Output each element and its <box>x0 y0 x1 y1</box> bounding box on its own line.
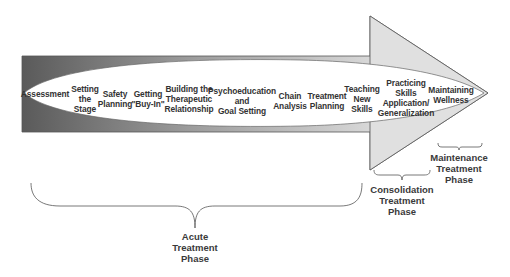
step-maintaining-wellness: Maintaining Wellness <box>428 85 473 105</box>
acute-phase-brace <box>31 183 362 228</box>
step-chain-analysis: Chain Analysis <box>273 91 307 111</box>
phase-maintenance-label: Maintenance Treatment Phase <box>430 152 488 185</box>
step-setting-the-stage: Setting the Stage <box>71 84 99 114</box>
step-psychoeducation-goal-setting: Psychoeducation and Goal Setting <box>208 86 276 116</box>
step-practicing-skills: Practicing Skills Application/ Generaliz… <box>378 78 434 118</box>
step-safety-planning: Safety Planning <box>98 89 133 109</box>
treatment-phases-diagram: Assessment Setting the Stage Safety Plan… <box>0 0 510 277</box>
phase-consolidation-label: Consolidation Treatment Phase <box>370 184 433 217</box>
maintenance-phase-brace <box>438 143 482 150</box>
step-teaching-new-skills: Teaching New Skills <box>344 84 379 114</box>
arrow-graphic <box>0 0 510 277</box>
step-treatment-planning: Treatment Planning <box>307 91 346 111</box>
phase-acute-label: Acute Treatment Phase <box>172 231 217 264</box>
consolidation-phase-brace <box>374 170 430 180</box>
step-getting-buy-in: Getting "Buy-In" <box>131 89 164 109</box>
step-building-therapeutic-relationship: Building the Therapeutic Relationship <box>164 84 213 114</box>
step-assessment: Assessment <box>21 89 69 99</box>
